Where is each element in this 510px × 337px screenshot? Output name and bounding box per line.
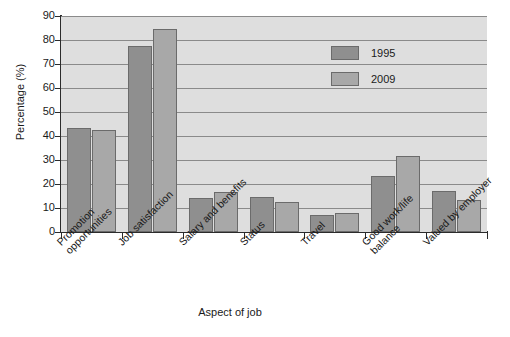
legend-swatch-2009	[331, 72, 359, 86]
y-tick-label-20: 20	[15, 178, 55, 189]
y-tick-label-60: 60	[15, 82, 55, 93]
gridline-90	[61, 16, 487, 17]
bar-chart: Percentage (%) 0102030405060708090 1995 …	[0, 0, 510, 337]
bar-2009-cat3	[275, 202, 299, 232]
bar-1995-cat1	[128, 46, 152, 232]
y-tick-label-90: 90	[15, 10, 55, 21]
y-tick-label-70: 70	[15, 58, 55, 69]
bar-2009-cat4	[335, 213, 359, 232]
gridline-30	[61, 160, 487, 161]
legend-label-2009: 2009	[371, 73, 395, 85]
y-tick-label-0: 0	[15, 226, 55, 237]
y-tick-label-10: 10	[15, 202, 55, 213]
gridline-20	[61, 184, 487, 185]
gridline-80	[61, 40, 487, 41]
legend-item-2009[interactable]: 2009	[331, 68, 441, 90]
legend-swatch-1995	[331, 46, 359, 60]
x-tick-mark-7	[487, 233, 488, 239]
y-tick-label-50: 50	[15, 106, 55, 117]
gridline-50	[61, 112, 487, 113]
y-tick-label-40: 40	[15, 130, 55, 141]
y-tick-label-30: 30	[15, 154, 55, 165]
y-tick-label-80: 80	[15, 34, 55, 45]
x-axis-title: Aspect of job	[0, 306, 460, 318]
legend-item-1995[interactable]: 1995	[331, 42, 441, 64]
y-axis-ticks: 0102030405060708090	[0, 0, 55, 337]
gridline-40	[61, 136, 487, 137]
legend: 1995 2009	[331, 42, 441, 94]
legend-label-1995: 1995	[371, 47, 395, 59]
plot-area: 1995 2009	[61, 16, 487, 232]
